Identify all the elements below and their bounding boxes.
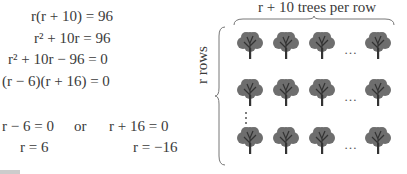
tree-icon <box>235 125 265 155</box>
ellipsis: … <box>344 137 358 153</box>
tree-icon <box>363 77 393 107</box>
equation-line-4: (r − 6)(r + 16) = 0 <box>2 73 110 90</box>
tree-icon <box>307 125 337 155</box>
or-label: or <box>74 118 87 135</box>
tree-icon <box>307 77 337 107</box>
equation-line-3: r² + 10r − 96 = 0 <box>8 51 108 68</box>
equation-line-1: r(r + 10) = 96 <box>31 8 113 25</box>
equation-case-2: r + 16 = 0 <box>109 118 168 135</box>
tree-icon <box>363 125 393 155</box>
tree-icon <box>271 125 301 155</box>
solution-2: r = −16 <box>133 139 177 156</box>
solution-1: r = 6 <box>20 139 48 156</box>
equation-case-1: r − 6 = 0 <box>2 118 54 135</box>
equation-line-2: r² + 10r = 96 <box>34 30 110 47</box>
trees-per-row-label: r + 10 trees per row <box>258 0 376 16</box>
tree-icon <box>235 77 265 107</box>
tree-icon <box>271 30 301 60</box>
top-brace <box>233 16 395 26</box>
tree-icon <box>363 30 393 60</box>
tree-icon <box>271 77 301 107</box>
rows-label: r rows <box>194 46 211 84</box>
tree-icon <box>235 30 265 60</box>
side-brace <box>214 26 226 166</box>
tree-icon <box>307 30 337 60</box>
vertical-ellipsis <box>245 112 248 127</box>
footer-bar <box>0 170 20 174</box>
ellipsis: … <box>344 89 358 105</box>
ellipsis: … <box>344 42 358 58</box>
